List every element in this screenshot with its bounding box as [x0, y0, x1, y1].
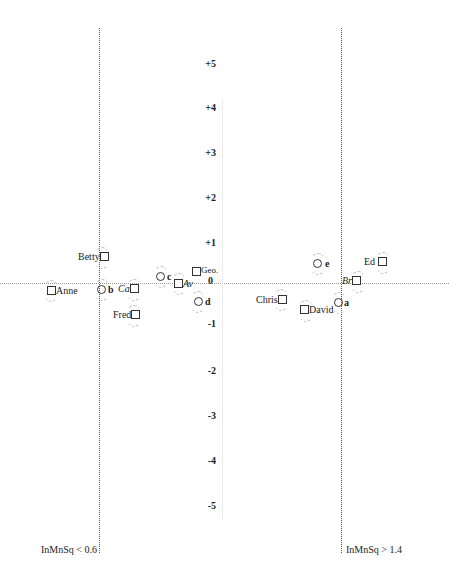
tick-minus1: -1	[186, 318, 216, 329]
tick-plus5: +5	[186, 58, 216, 69]
error-arc	[126, 279, 142, 301]
center-axis	[222, 100, 223, 520]
error-arc	[94, 279, 110, 301]
error-arc	[331, 292, 347, 314]
right-boundary-line	[341, 28, 342, 553]
error-arc	[43, 280, 59, 302]
error-arc	[153, 266, 169, 288]
tick-plus2: +2	[186, 192, 216, 203]
tick-minus2: -2	[186, 365, 216, 376]
tick-minus4: -4	[186, 455, 216, 466]
error-arc	[171, 273, 187, 295]
tick-plus1: +1	[186, 237, 216, 248]
square-marker	[192, 267, 201, 276]
error-arc	[190, 291, 206, 313]
error-arc	[350, 271, 366, 293]
error-arc	[375, 252, 391, 274]
error-arc	[310, 253, 326, 275]
error-arc	[298, 300, 314, 322]
error-arc	[126, 305, 142, 327]
tick-plus3: +3	[186, 147, 216, 158]
right-footer-label: InMnSq > 1.4	[346, 544, 402, 555]
tick-plus4: +4	[186, 102, 216, 113]
error-arc	[94, 247, 110, 269]
tick-minus3: -3	[186, 410, 216, 421]
person-geo: Geo.	[192, 265, 218, 276]
left-footer-label: InMnSq < 0.6	[41, 544, 97, 555]
error-arc	[273, 289, 289, 311]
tick-minus5: -5	[186, 500, 216, 511]
